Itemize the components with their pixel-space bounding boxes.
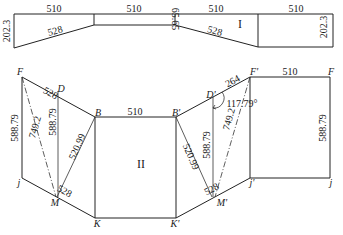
dim-D-vertical: 588.79 [47,108,58,136]
dim-F-j-right: 588.79 [317,114,328,142]
point-label-M-prime: M' [216,197,228,208]
dim-top-4: 510 [289,3,304,14]
top-strip: 510 510 510 510 202.3 202.3 65.65 528 52… [1,3,333,48]
sheet-metal-development-diagram: 510 510 510 510 202.3 202.3 65.65 528 52… [0,0,343,235]
dim-right-height: 202.3 [318,16,329,39]
point-label-j-right: j [328,177,333,188]
dim-D-prime-F-prime: 264 [223,73,241,90]
part-label-I: I [238,17,242,31]
dim-F-M: 749.2 [26,115,43,140]
part-label-II: II [137,157,145,171]
dim-top-1: 510 [47,3,62,14]
point-label-F-right: F [327,66,335,77]
point-label-F-left: F [16,66,24,77]
point-label-K-prime: K' [170,218,181,229]
dim-top-2: 510 [127,3,142,14]
dim-F-j: 588.79 [9,114,20,142]
dim-D-prime-vertical: 588.79 [201,131,212,159]
dim-B-M: 520.99 [66,132,87,162]
point-label-j-left: j [16,177,21,188]
dim-B-prime-M-prime: 520.99 [181,142,202,172]
dim-F-prime-F: 510 [283,66,298,77]
point-label-F-prime: F' [249,66,259,77]
dim-top-3: 510 [209,3,224,14]
dim-left-slant: 528 [46,23,63,38]
dim-middle-height: 65.65 [170,8,181,31]
bottom-development: F D B j M K B' D' F' F j' M' K' j 528 58… [9,66,335,229]
point-label-B-prime: B' [172,107,181,118]
dim-B-B-prime: 510 [128,106,143,117]
dim-M-prime-j-prime: 528 [202,181,220,198]
dim-angle: 117.79° [226,98,257,109]
point-label-B: B [95,107,101,118]
point-label-M: M [50,197,60,208]
dim-right-slant: 528 [206,23,223,38]
line-F-prime-M-prime [215,77,250,197]
dim-F-prime-M-prime: 749.2 [220,107,237,132]
point-label-K: K [93,218,102,229]
point-label-j-prime: j' [248,177,256,188]
point-label-D-prime: D' [205,89,216,100]
dim-left-height: 202.3 [1,20,12,43]
